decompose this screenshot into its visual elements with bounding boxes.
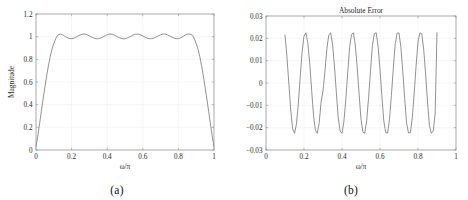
x-axis-title: ω/π (120, 162, 131, 171)
x-tick-label: 0.4 (338, 153, 347, 161)
y-tick-label: 0.02 (250, 35, 263, 43)
figure-container: 00.20.40.60.8100.20.40.60.811.2ω/πMagnit… (0, 0, 468, 200)
caption-a: (a) (0, 184, 234, 196)
y-tick-label: 0 (259, 80, 263, 88)
x-tick-label: 0.4 (103, 153, 112, 161)
plot-a: 00.20.40.60.8100.20.40.60.811.2ω/πMagnit… (0, 0, 234, 200)
y-tick-label: −0.02 (246, 124, 263, 132)
panel-b: 00.20.40.60.81−0.03−0.02−0.0100.010.020.… (234, 0, 468, 200)
panel-a: 00.20.40.60.8100.20.40.60.811.2ω/πMagnit… (0, 0, 234, 200)
x-tick-label: 0.6 (376, 153, 385, 161)
plot-title: Absolute Error (339, 6, 384, 15)
x-tick-label: 0.6 (138, 153, 147, 161)
y-tick-label: 0.2 (24, 124, 33, 132)
data-curve-0 (36, 34, 214, 147)
x-tick-label: 0.8 (414, 153, 423, 161)
y-tick-label: 1 (29, 33, 33, 41)
y-tick-label: 1.2 (24, 11, 33, 19)
x-axis-title: ω/π (356, 162, 367, 171)
plot-b: 00.20.40.60.81−0.03−0.02−0.0100.010.020.… (234, 0, 468, 200)
y-tick-label: −0.01 (246, 102, 263, 110)
y-tick-label: 0.4 (24, 101, 33, 109)
y-tick-label: 0.03 (250, 13, 263, 21)
y-tick-label: 0.6 (24, 79, 33, 87)
y-tick-label: 0 (29, 147, 33, 155)
x-tick-label: 0.2 (300, 153, 309, 161)
x-tick-label: 1 (454, 153, 458, 161)
y-axis-title: Magnitude (7, 65, 16, 98)
x-tick-label: 0 (264, 153, 268, 161)
x-tick-label: 0 (34, 153, 38, 161)
x-tick-label: 0.8 (174, 153, 183, 161)
y-tick-label: 0.01 (250, 57, 263, 65)
x-tick-label: 1 (212, 153, 216, 161)
x-tick-label: 0.2 (67, 153, 76, 161)
y-tick-label: 0.8 (24, 56, 33, 64)
caption-b: (b) (234, 184, 468, 196)
y-tick-label: −0.03 (246, 147, 263, 155)
